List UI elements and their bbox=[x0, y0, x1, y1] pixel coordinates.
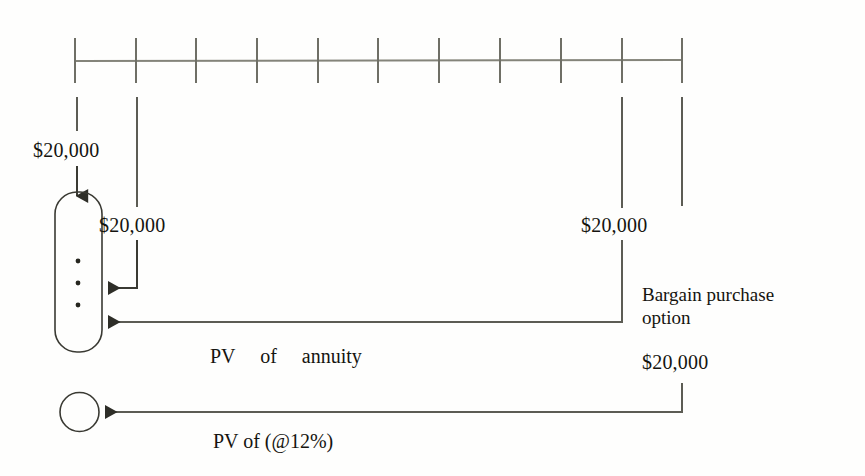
pv-of-rate-caption: PV of (@12%) bbox=[213, 430, 333, 454]
total-present-value-circle bbox=[60, 393, 99, 432]
ellipsis-dot-1 bbox=[76, 259, 81, 264]
bargain-purchase-option-line1: Bargain purchase bbox=[642, 284, 774, 306]
payment-1-connector bbox=[108, 97, 137, 288]
amount-label-period-1: $20,000 bbox=[99, 214, 165, 238]
ellipsis-dot-2 bbox=[76, 281, 81, 286]
payment-9-connector bbox=[108, 97, 622, 322]
bargain-purchase-connector bbox=[105, 97, 682, 412]
pv-of-annuity-caption: PV of annuity bbox=[210, 345, 362, 369]
pv-of-annuity-box bbox=[55, 192, 102, 352]
ellipsis-dot-3 bbox=[76, 303, 81, 308]
timeline-svg bbox=[0, 0, 865, 476]
bargain-purchase-option-line2: option bbox=[642, 307, 691, 329]
amount-label-period-0: $20,000 bbox=[33, 139, 99, 163]
lease-timeline-diagram: $20,000 $20,000 $20,000 Bargain purchase… bbox=[0, 0, 865, 476]
bargain-purchase-option-amount: $20,000 bbox=[642, 351, 708, 375]
amount-label-period-9: $20,000 bbox=[581, 214, 647, 238]
